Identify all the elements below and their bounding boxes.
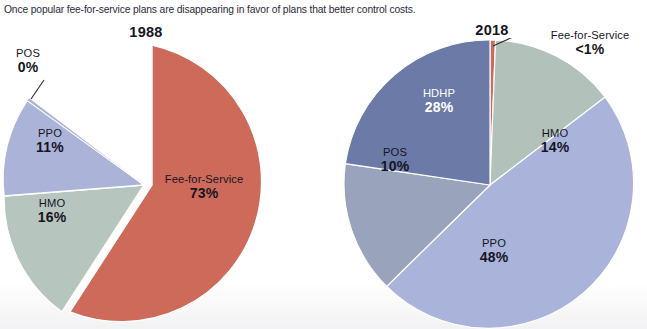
pie-chart-2018	[343, 38, 647, 329]
pie-chart-figure: Once popular fee-for-service plans are d…	[0, 0, 647, 329]
chart-title-1988: 1988	[86, 24, 206, 40]
chart-title-2018: 2018	[432, 22, 552, 38]
pie-1988-svg	[0, 40, 300, 329]
slice-2018-hdhp[interactable]	[345, 40, 490, 185]
pie-chart-1988	[0, 40, 300, 329]
slice-1988-ppo[interactable]	[3, 100, 144, 195]
pos-1988-leader-line	[31, 80, 44, 99]
figure-caption: Once popular fee-for-service plans are d…	[4, 3, 644, 16]
pie-2018-svg	[343, 38, 647, 329]
